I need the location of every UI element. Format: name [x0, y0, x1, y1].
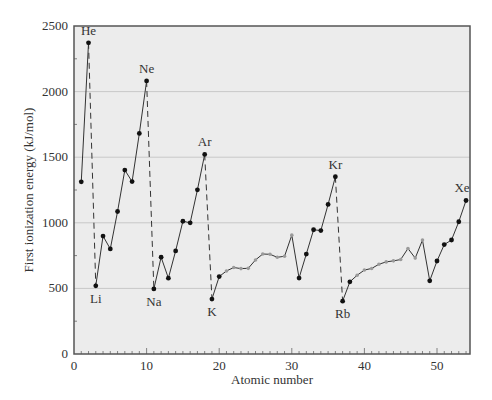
transition-metal-marker — [268, 252, 272, 256]
data-marker — [122, 168, 127, 173]
element-label-li: Li — [90, 291, 102, 306]
transition-metal-marker — [254, 258, 258, 262]
transition-metal-marker — [384, 260, 388, 264]
data-marker — [217, 274, 222, 279]
transition-metal-marker — [370, 267, 374, 271]
data-marker — [202, 152, 207, 157]
transition-metal-marker — [261, 252, 265, 256]
data-marker — [326, 202, 331, 207]
data-marker — [297, 276, 302, 281]
x-tick-label: 0 — [71, 358, 78, 373]
transition-metal-marker — [399, 258, 403, 262]
data-marker — [108, 247, 113, 252]
data-marker — [86, 40, 91, 45]
x-tick-label: 50 — [431, 358, 444, 373]
y-axis-title: First ionization energy (kJ/mol) — [21, 108, 36, 273]
data-marker — [173, 248, 178, 253]
y-tick-label: 2500 — [42, 18, 68, 33]
plot-area — [74, 26, 470, 354]
transition-metal-marker — [290, 233, 294, 237]
transition-metal-marker — [239, 267, 243, 271]
x-tick-label: 40 — [358, 358, 371, 373]
data-marker — [144, 79, 149, 84]
y-tick-label: 1500 — [42, 149, 68, 164]
y-tick-label: 1000 — [42, 215, 68, 230]
x-tick-label: 30 — [285, 358, 298, 373]
data-marker — [79, 179, 84, 184]
transition-metal-marker — [392, 259, 396, 263]
data-marker — [442, 242, 447, 247]
data-marker — [195, 187, 200, 192]
data-marker — [311, 227, 316, 232]
transition-metal-marker — [406, 247, 410, 251]
x-tick-label: 20 — [213, 358, 226, 373]
element-label-rb: Rb — [335, 306, 350, 321]
transition-metal-marker — [421, 238, 425, 242]
transition-metal-marker — [355, 273, 359, 277]
element-label-xe: Xe — [454, 180, 469, 195]
element-label-k: K — [207, 304, 217, 319]
y-axis-tick-labels: 05001000150020002500 — [42, 18, 68, 361]
data-marker — [101, 234, 106, 239]
data-marker — [93, 283, 98, 288]
data-marker — [340, 299, 345, 304]
element-label-he: He — [81, 23, 96, 38]
data-marker — [130, 179, 135, 184]
data-marker — [151, 287, 156, 292]
data-marker — [159, 255, 164, 260]
x-axis-tick-labels: 01020304050 — [71, 358, 444, 373]
data-marker — [449, 238, 454, 243]
element-label-kr: Kr — [329, 157, 343, 172]
transition-metal-marker — [225, 269, 229, 273]
data-marker — [456, 219, 461, 224]
element-label-ar: Ar — [198, 134, 212, 149]
data-marker — [210, 297, 215, 302]
transition-metal-marker — [232, 266, 236, 270]
data-marker — [427, 278, 432, 283]
data-marker — [166, 276, 171, 281]
data-marker — [115, 209, 120, 214]
transition-metal-marker — [413, 256, 417, 260]
y-tick-label: 2000 — [42, 84, 68, 99]
ionization-energy-chart: 05001000150020002500 01020304050 HeNeArK… — [0, 0, 492, 400]
x-axis-title: Atomic number — [231, 372, 314, 387]
data-marker — [188, 220, 193, 225]
y-tick-label: 0 — [62, 346, 69, 361]
x-tick-label: 10 — [140, 358, 153, 373]
transition-metal-marker — [283, 254, 287, 258]
data-marker — [464, 198, 469, 203]
element-label-na: Na — [146, 294, 161, 309]
transition-metal-marker — [377, 262, 381, 266]
data-marker — [137, 131, 142, 136]
data-marker — [435, 259, 440, 264]
y-tick-label: 500 — [49, 280, 69, 295]
transition-metal-marker — [275, 256, 279, 260]
data-marker — [318, 228, 323, 233]
data-marker — [347, 279, 352, 284]
transition-metal-marker — [246, 267, 250, 271]
data-marker — [333, 174, 338, 179]
data-marker — [181, 219, 186, 224]
element-label-ne: Ne — [139, 61, 154, 76]
data-marker — [304, 252, 309, 257]
transition-metal-marker — [363, 268, 367, 272]
